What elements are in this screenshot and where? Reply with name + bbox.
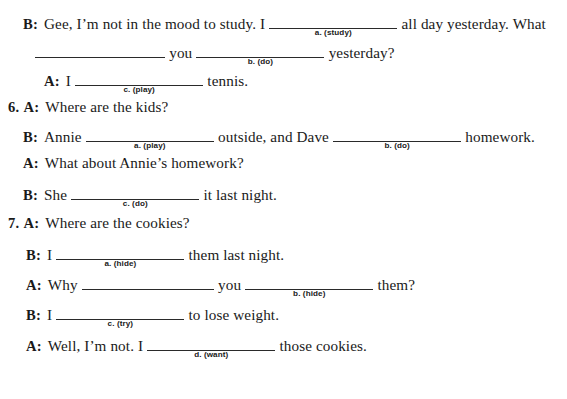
sentence-text: outside, and Dave [218,129,329,144]
answer-blank[interactable]: c. (do) [71,185,199,200]
answer-blank[interactable]: b. (do) [333,127,461,142]
speaker-label: B: [23,188,38,203]
answer-blank[interactable]: a. (study) [269,14,397,29]
speaker-label: A: [24,100,40,115]
item-number: 6. [8,100,19,115]
sentence-text: you [169,45,192,60]
speaker-label: B: [23,130,38,145]
speaker-label: A: [24,216,40,231]
dialogue-line: A:Ic. (play)tennis. [44,71,252,89]
dialogue-line: A:Whyyoub. (hide)them? [26,275,419,293]
sentence-text: What about Annie’s homework? [45,155,244,170]
sentence-text: I [47,307,52,322]
speaker-label: B: [26,248,41,263]
dialogue-line: B:Ia. (hide)them last night. [26,245,288,263]
sentence-text: Well, I’m not. I [48,338,143,353]
answer-blank[interactable]: a. (hide) [56,245,184,260]
speaker-label: A: [26,339,42,354]
answer-blank[interactable] [82,275,214,290]
speaker-label: A: [44,74,60,89]
answer-blank[interactable]: d. (want) [147,336,275,351]
blank-hint-label: c. (play) [75,86,203,94]
answer-blank[interactable] [35,43,165,58]
blank-hint-label: a. (study) [269,29,397,37]
answer-blank[interactable]: c. (play) [75,71,203,86]
blank-hint-label: d. (want) [147,351,275,359]
sentence-text: Why [48,277,78,292]
speaker-label: A: [26,278,42,293]
sentence-text: Gee, I’m not in the mood to study. I [44,16,265,31]
sentence-text: to lose weight. [189,307,280,322]
answer-blank[interactable]: b. (do) [196,43,324,58]
answer-blank[interactable]: a. (play) [86,127,214,142]
answer-blank[interactable]: c. (try) [56,305,184,320]
blank-hint-label: a. (hide) [56,260,184,268]
sentence-text: you [218,277,241,292]
sentence-text: Where are the cookies? [45,215,189,230]
sentence-text: Where are the kids? [45,99,168,114]
dialogue-line: 6.A:Where are the kids? [8,99,172,115]
worksheet-page: B:Gee, I’m not in the mood to study. Ia.… [0,0,567,399]
speaker-label: B: [23,17,38,32]
dialogue-line: A:Well, I’m not. Id. (want)those cookies… [26,336,371,354]
blank-hint-label: c. (do) [71,200,199,208]
dialogue-line: youb. (do)yesterday? [35,43,399,60]
sentence-text: them last night. [189,247,285,262]
sentence-text: She [44,187,67,202]
item-number: 7. [8,216,19,231]
dialogue-line: B:Ic. (try)to lose weight. [26,305,283,323]
blank-hint-label: b. (do) [333,142,461,150]
speaker-label: B: [26,308,41,323]
blank-hint-label: b. (hide) [245,290,373,298]
dialogue-line: B:Anniea. (play)outside, and Daveb. (do)… [23,127,539,145]
sentence-text: I [66,73,71,88]
sentence-text: Annie [44,129,82,144]
sentence-text: all day yesterday. What [402,16,546,31]
sentence-text: I [47,247,52,262]
dialogue-line: B:Shec. (do)it last night. [23,185,281,203]
blank-hint-label: a. (play) [86,142,214,150]
speaker-label: A: [23,156,39,171]
answer-blank[interactable]: b. (hide) [245,275,373,290]
dialogue-line: A:What about Annie’s homework? [23,155,248,171]
sentence-text: those cookies. [279,338,366,353]
sentence-text: yesterday? [329,45,395,60]
sentence-text: tennis. [207,73,248,88]
sentence-text: homework. [465,129,535,144]
dialogue-line: 7.A:Where are the cookies? [8,215,194,231]
sentence-text: them? [377,277,415,292]
sentence-text: it last night. [203,187,277,202]
dialogue-line: B:Gee, I’m not in the mood to study. Ia.… [23,14,550,32]
blank-hint-label: c. (try) [56,320,184,328]
blank-hint-label: b. (do) [196,58,324,66]
